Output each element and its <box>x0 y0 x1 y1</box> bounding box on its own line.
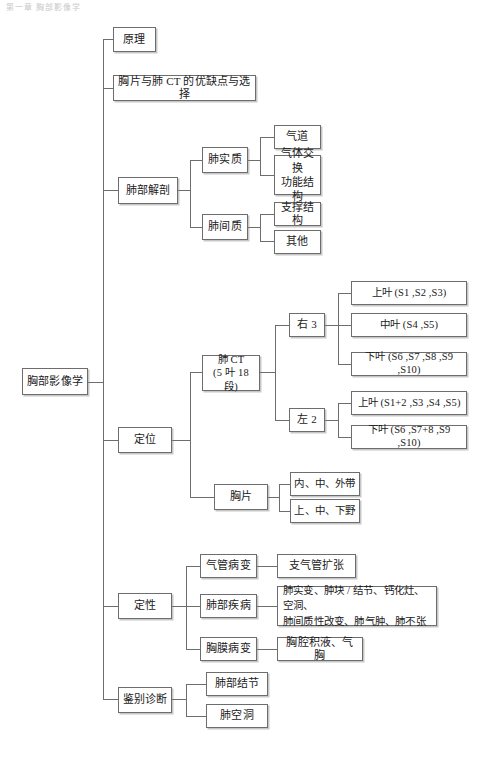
connector-differential-cavity <box>186 716 206 717</box>
connector-interstitium-other <box>260 241 274 242</box>
connector-interstitium-support <box>260 214 274 215</box>
connector-right3-lower <box>338 364 351 365</box>
connector-localization-lungct <box>190 372 202 373</box>
connector-spine-localization <box>103 440 118 441</box>
node-left-lower-lobe[interactable]: 下叶 (S6 ,S7+8 ,S9 ,S10) <box>351 425 467 449</box>
node-left-2[interactable]: 左 2 <box>289 408 325 432</box>
connector-lungdisease-detail <box>257 606 277 607</box>
node-right-upper-lobe[interactable]: 上叶 (S1 ,S2 ,S3) <box>351 281 467 305</box>
connector-parenchyma-airway <box>260 137 274 138</box>
connector-anatomy-spine <box>190 160 191 227</box>
connector-spine-qualitative <box>103 606 118 607</box>
page-header-note: 第一章 胸部影像学 <box>6 1 81 12</box>
connector-root-to-spine <box>88 382 103 383</box>
connector-spine-differential <box>103 699 118 700</box>
connector-spine-anatomy <box>103 190 118 191</box>
node-zones-band[interactable]: 内、中、外带 <box>290 472 360 496</box>
node-pleural-lesion[interactable]: 胸膜病变 <box>200 637 257 661</box>
connector-chestxray-band <box>279 484 290 485</box>
node-lung-disease[interactable]: 肺部疾病 <box>200 594 257 618</box>
connector-lungct-spine <box>275 325 276 420</box>
node-lung-nodule[interactable]: 肺部结节 <box>206 672 268 696</box>
connector-spine-compare <box>103 88 113 89</box>
connector-qualitative-lungdisease <box>186 606 200 607</box>
connector-chestxray-field <box>279 511 290 512</box>
connector-chestxray-out <box>268 497 279 498</box>
node-localization[interactable]: 定位 <box>118 427 172 453</box>
connector-localization-chestxray <box>190 497 214 498</box>
connector-level1-spine <box>103 39 104 699</box>
connector-lungct-left2 <box>275 420 289 421</box>
node-pleural-detail[interactable]: 胸腔积液、气胸 <box>277 637 363 661</box>
node-airway[interactable]: 气道 <box>274 125 321 149</box>
node-zones-field[interactable]: 上、中、下野 <box>290 499 360 523</box>
connector-left2-spine <box>338 403 339 437</box>
connector-parenchyma-gasexchange <box>260 175 274 176</box>
connector-right3-spine <box>338 293 339 364</box>
connector-trachea-bronchiectasis <box>257 566 277 567</box>
node-right-3[interactable]: 右 3 <box>289 313 325 337</box>
node-gas-exchange[interactable]: 气体交换 功能结构 <box>274 155 321 195</box>
connector-qualitative-pleural <box>186 649 200 650</box>
node-parenchyma[interactable]: 肺实质 <box>202 147 248 173</box>
connector-differential-nodule <box>186 684 206 685</box>
connector-anatomy-parenchyma <box>190 160 202 161</box>
node-interstitium[interactable]: 肺间质 <box>202 214 248 240</box>
node-support-structure[interactable]: 支撑结构 <box>274 202 321 226</box>
connector-localization-spine <box>190 372 191 497</box>
node-differential-diagnosis[interactable]: 鉴别诊断 <box>118 687 172 713</box>
connector-differential-out <box>172 699 186 700</box>
node-chest-xray[interactable]: 胸片 <box>214 484 268 510</box>
node-qualitative[interactable]: 定性 <box>118 593 172 619</box>
connector-localization-out <box>172 440 190 441</box>
connector-interstitium-out <box>248 227 260 228</box>
connector-left2-out <box>325 420 338 421</box>
connector-right3-upper <box>338 293 351 294</box>
node-right-middle-lobe[interactable]: 中叶 (S4 ,S5) <box>351 313 467 337</box>
node-right-lower-lobe[interactable]: 下叶 (S6 ,S7 ,S8 ,S9 ,S10) <box>351 352 467 376</box>
node-lung-ct[interactable]: 肺 CT (5 叶 18 段) <box>202 355 260 391</box>
node-anatomy[interactable]: 肺部解剖 <box>118 177 178 204</box>
connector-pleural-detail <box>257 649 277 650</box>
connector-qualitative-out <box>172 606 186 607</box>
node-compare[interactable]: 胸片与肺 CT 的优缺点与选择 <box>113 75 256 101</box>
connector-lungct-right3 <box>275 325 289 326</box>
connector-parenchyma-out <box>248 160 260 161</box>
connector-qualitative-spine <box>186 566 187 649</box>
node-principle[interactable]: 原理 <box>113 27 156 52</box>
connector-anatomy-interstitium <box>190 227 202 228</box>
node-trachea-lesion[interactable]: 气管病变 <box>200 554 257 578</box>
node-left-upper-lobe[interactable]: 上叶 (S1+2 ,S3 ,S4 ,S5) <box>351 391 467 415</box>
node-root[interactable]: 胸部影像学 <box>22 368 88 395</box>
connector-interstitium-spine <box>260 214 261 241</box>
connector-qualitative-trachea <box>186 566 200 567</box>
connector-parenchyma-spine <box>260 137 261 175</box>
connector-left2-lower <box>338 437 351 438</box>
node-lung-cavity[interactable]: 肺空洞 <box>206 704 268 728</box>
node-other[interactable]: 其他 <box>274 230 321 254</box>
mindmap-canvas: 第一章 胸部影像学 <box>0 0 491 762</box>
connector-spine-principle <box>103 39 113 40</box>
node-bronchiectasis[interactable]: 支气管扩张 <box>277 554 356 578</box>
connector-differential-spine <box>186 684 187 716</box>
connector-left2-upper <box>338 403 351 404</box>
connector-right3-middle <box>338 325 351 326</box>
connector-right3-out <box>325 325 338 326</box>
connector-chestxray-spine <box>279 484 280 511</box>
connector-lungct-out <box>260 372 275 373</box>
node-lung-disease-detail[interactable]: 肺实变、肿块 / 结节、钙化灶、空洞、 肺间质性改变、肺气肿、肺不张 <box>277 586 437 626</box>
connector-anatomy-out <box>178 190 190 191</box>
